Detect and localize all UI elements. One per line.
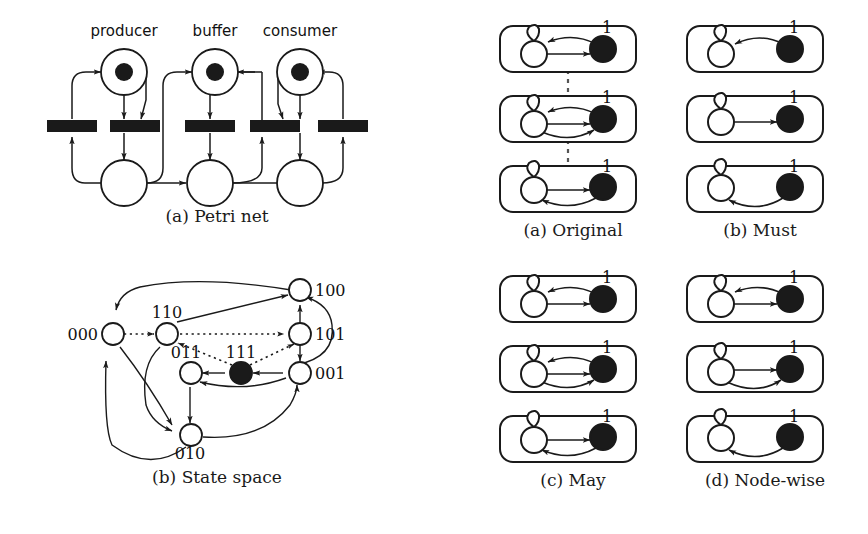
node-1 <box>590 356 616 382</box>
state-node-000 <box>102 323 124 345</box>
arc-p-idle-to-t1 <box>72 137 104 183</box>
place-label-buffer: buffer <box>193 22 239 40</box>
edge-110-100 <box>177 295 288 322</box>
node-label-1: 1 <box>602 338 612 357</box>
panel-petri-net: producer buffer consumer <box>0 0 434 230</box>
node-1 <box>590 424 616 450</box>
state-space-graphic: 000 100 110 101 011 111 001 010 <box>0 265 434 490</box>
transition-t4 <box>250 120 300 132</box>
must-box-3: 1 <box>687 157 823 212</box>
dotted-111-101 <box>250 344 294 365</box>
top-places-group <box>101 49 323 95</box>
node-label-1: 1 <box>789 157 799 176</box>
state-label-110: 110 <box>152 303 183 322</box>
state-label-111: 111 <box>226 343 257 362</box>
panel-state-space: 000 100 110 101 011 111 001 010 (b) Stat… <box>0 265 434 525</box>
node-label-1: 1 <box>602 407 612 426</box>
state-node-110 <box>156 323 178 345</box>
state-node-111 <box>230 362 252 384</box>
panel-may: 1 1 <box>478 268 668 513</box>
may-box-3: 1 <box>500 407 636 462</box>
state-label-010: 010 <box>175 444 206 463</box>
place-label-producer: producer <box>90 22 158 40</box>
transition-t5 <box>318 120 368 132</box>
state-node-010 <box>180 424 202 446</box>
node-label-1: 1 <box>789 338 799 357</box>
node-0 <box>708 359 734 385</box>
node-label-1: 1 <box>602 268 612 287</box>
node-0 <box>521 111 547 137</box>
may-graphic: 1 1 <box>478 268 668 478</box>
must-box-1: 1 <box>687 18 823 72</box>
token-consumer <box>291 63 309 81</box>
transition-t2 <box>110 120 160 132</box>
transition-t1 <box>47 120 97 132</box>
node-1 <box>777 106 803 132</box>
state-space-nodes <box>102 279 311 446</box>
figure-root: producer buffer consumer <box>0 0 868 534</box>
state-label-100: 100 <box>315 281 346 300</box>
node-0 <box>708 41 734 67</box>
place-consumer-idle <box>277 160 323 206</box>
caption-may: (c) May <box>478 470 668 490</box>
state-label-001: 001 <box>315 364 346 383</box>
original-box-1: 1 <box>500 18 636 72</box>
node-label-1: 1 <box>789 268 799 287</box>
node-1 <box>777 36 803 62</box>
may-box-2: 1 <box>500 338 636 392</box>
node-wise-box-3: 1 <box>687 407 823 462</box>
bottom-places-group <box>101 160 323 206</box>
edge-000-010 <box>120 347 172 425</box>
state-node-100 <box>289 279 311 301</box>
node-wise-box-2: 1 <box>687 338 823 392</box>
node-label-1: 1 <box>789 407 799 426</box>
node-1 <box>590 174 616 200</box>
original-box-3: 1 <box>500 157 636 212</box>
node-1 <box>777 286 803 312</box>
place-buffer-empty <box>187 160 233 206</box>
node-0 <box>708 109 734 135</box>
edge-010-001 <box>203 385 297 437</box>
transition-group <box>47 120 368 132</box>
arc-b-empty-to-t4 <box>232 137 262 183</box>
panel-original: 1 1 <box>478 18 668 263</box>
node-label-1: 1 <box>602 88 612 107</box>
arc-c-idle-to-t5 <box>322 137 343 183</box>
state-label-011: 011 <box>171 343 202 362</box>
token-producer <box>115 63 133 81</box>
place-label-consumer: consumer <box>263 22 338 40</box>
state-node-001 <box>289 362 311 384</box>
state-label-000: 000 <box>67 325 98 344</box>
node-0 <box>521 427 547 453</box>
node-label-1: 1 <box>789 18 799 37</box>
node-0 <box>521 177 547 203</box>
node-label-1: 1 <box>789 88 799 107</box>
transition-t3 <box>185 120 235 132</box>
panel-must: 1 1 1 <box>665 18 855 263</box>
node-1 <box>590 106 616 132</box>
caption-petri-net: (a) Petri net <box>0 206 434 226</box>
node-1 <box>590 36 616 62</box>
arc-t1-to-producer <box>72 72 101 119</box>
state-label-101: 101 <box>315 325 346 344</box>
node-0 <box>521 41 547 67</box>
caption-node-wise: (d) Node-wise <box>665 470 865 490</box>
node-1 <box>777 174 803 200</box>
node-0 <box>708 175 734 201</box>
state-node-101 <box>289 323 311 345</box>
place-producer-idle <box>101 160 147 206</box>
must-graphic: 1 1 1 <box>665 18 855 228</box>
edge-100-000 <box>116 282 291 310</box>
original-graphic: 1 1 <box>478 18 668 228</box>
node-label-1: 1 <box>602 18 612 37</box>
node-wise-box-1: 1 <box>687 268 823 322</box>
panel-node-wise: 1 1 <box>665 268 865 513</box>
may-box-1: 1 <box>500 268 636 322</box>
caption-must: (b) Must <box>665 220 855 240</box>
original-box-2: 1 <box>500 88 636 142</box>
node-wise-graphic: 1 1 <box>665 268 865 478</box>
caption-state-space: (b) State space <box>0 467 434 487</box>
node-0 <box>708 291 734 317</box>
node-0 <box>708 425 734 451</box>
node-1 <box>777 356 803 382</box>
